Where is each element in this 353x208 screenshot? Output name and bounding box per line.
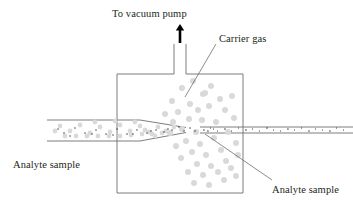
analyte-dot [146,132,148,134]
up-arrow-icon [176,24,184,43]
arrow-head [176,24,184,30]
analyte-particle [98,125,103,130]
inlet-tube-lower-wall [47,133,186,142]
analyte-particle [160,131,165,136]
outlet-analyte-dot [336,128,337,129]
gas-particle [217,96,223,102]
analyte-outlet-capillary [200,127,353,133]
analyte-dot [105,133,107,135]
outlet-analyte-dot [273,130,274,131]
analyte-particle [96,134,101,139]
gas-particle [186,116,192,122]
analyte-particle [118,123,123,128]
analyte-particle [129,133,134,138]
outlet-analyte-dot [210,128,211,129]
spray-dot [183,130,185,132]
analyte-particle [140,132,145,137]
outlet-analyte-dots [203,128,344,132]
gas-particle [215,169,221,175]
carrier-gas-leader-line [185,44,216,97]
analyte-particle [172,125,177,130]
gas-particle [208,163,214,169]
gas-particle [169,98,175,104]
outlet-analyte-dot [301,128,302,129]
analyte-particle [156,125,161,130]
gas-particle [193,129,199,135]
label-analyte-sample-outlet: Analyte sample [272,184,339,196]
gas-particle [200,172,206,178]
analyte-dot [171,129,173,131]
gas-particle [170,119,176,125]
gas-particle [183,138,189,144]
gas-particle [233,173,239,179]
analyte-particle [118,134,123,139]
gas-particle [202,90,208,96]
outlet-analyte-dot [308,131,310,132]
analyte-particle [78,123,83,128]
gas-particle [199,117,205,123]
gas-particle [206,182,212,188]
analyte-sample-leader-line [205,134,272,180]
diagram-svg [0,0,353,208]
gas-particle [223,158,229,164]
analyte-dot [63,132,65,134]
label-analyte-sample-inlet: Analyte sample [13,159,80,171]
analyte-dot [116,128,118,130]
gas-particle [175,109,181,115]
gas-particle [191,180,197,186]
gas-particle [162,111,168,117]
inlet-analyte-particles [53,119,177,139]
analyte-particle [113,119,118,124]
gas-particle [222,107,228,113]
gas-particle [231,115,237,121]
gas-particle [179,85,185,91]
outlet-analyte-dot [259,131,260,132]
gas-particle [228,165,234,171]
diagram-canvas: To vacuum pump Carrier gas Analyte sampl… [0,0,353,208]
analyte-particle [169,131,174,136]
outlet-analyte-dot [294,130,295,131]
analyte-dot [136,129,138,131]
outlet-analyte-dot [245,130,247,131]
gas-particle [187,101,193,107]
spray-dot [178,126,180,128]
spray-dot [189,127,191,129]
analyte-dot [126,133,128,135]
analyte-dot [112,134,114,136]
gas-particle [194,161,200,167]
analyte-particle [143,128,148,133]
gas-particle [178,155,184,161]
gas-particle [221,177,227,183]
gas-particle [218,147,224,153]
analyte-particle [107,134,112,139]
outlet-analyte-dot [203,130,205,131]
analyte-particle [108,130,113,135]
outlet-analyte-dot [224,129,226,130]
outlet-analyte-dot [231,131,232,132]
outlet-analyte-dot [329,131,331,132]
analyte-dot [132,133,134,135]
analyte-dot [150,130,152,132]
analyte-particle [153,134,158,139]
gas-particle [189,149,195,155]
analyte-particle [53,129,58,134]
spray-dot [194,130,196,132]
analyte-dot [155,129,157,131]
analyte-dot [57,128,59,130]
outlet-analyte-dot [238,128,239,129]
analyte-particle [68,129,73,134]
analyte-particle [93,120,98,125]
label-carrier-gas: Carrier gas [219,33,266,45]
label-to-vacuum-pump: To vacuum pump [112,8,187,20]
analyte-particle [58,124,63,129]
gas-particle [206,103,212,109]
outlet-analyte-dot [217,131,218,132]
analyte-dot [84,132,86,134]
analyte-dot [95,129,97,131]
outlet-analyte-dot [322,130,323,131]
gas-particle [229,93,235,99]
gas-particle [173,143,179,149]
analyte-dot [167,128,169,130]
analyte-particle [128,129,133,134]
outlet-analyte-dot [280,131,281,132]
